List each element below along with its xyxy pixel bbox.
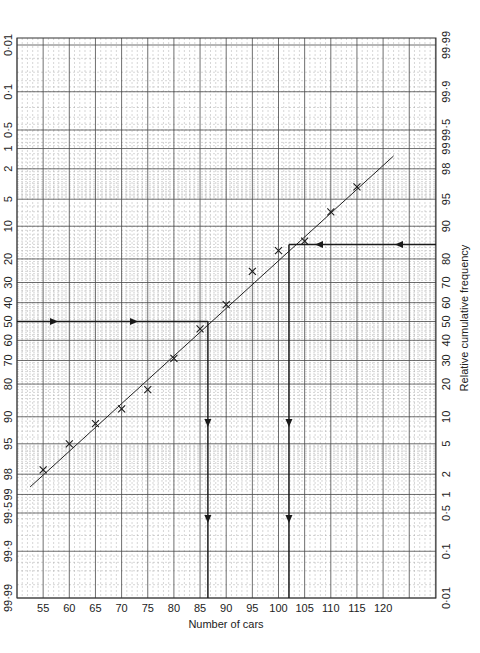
svg-text:90: 90 [2,411,14,423]
svg-text:10: 10 [2,220,14,232]
svg-text:95: 95 [440,193,452,205]
svg-text:0·5: 0·5 [440,505,452,521]
svg-text:99·99: 99·99 [2,584,14,612]
svg-text:95: 95 [246,602,258,614]
svg-text:0·1: 0·1 [440,543,452,559]
svg-text:95: 95 [2,438,14,450]
svg-text:120: 120 [374,602,392,614]
svg-text:99: 99 [2,488,14,500]
svg-text:40: 40 [440,334,452,346]
svg-text:99·9: 99·9 [440,81,452,103]
svg-text:90: 90 [440,220,452,232]
x-axis-title: Number of cars [188,618,264,630]
svg-text:0·01: 0·01 [2,34,14,56]
svg-text:75: 75 [142,602,154,614]
svg-text:80: 80 [440,253,452,265]
svg-text:5: 5 [2,196,14,202]
svg-text:20: 20 [440,378,452,390]
svg-text:105: 105 [295,602,313,614]
svg-text:2: 2 [440,471,452,477]
svg-text:115: 115 [348,602,366,614]
svg-text:99·99: 99·99 [440,31,452,59]
probability-plot: 99·9999·999·5999895908070605040302010521… [0,0,480,653]
svg-text:100: 100 [269,602,287,614]
svg-text:0·5: 0·5 [2,122,14,138]
left-axis-labels: 99·9999·999·5999895908070605040302010521… [2,34,14,612]
svg-text:85: 85 [194,602,206,614]
svg-text:55: 55 [37,602,49,614]
svg-text:99: 99 [440,142,452,154]
svg-text:99·9: 99·9 [2,540,14,562]
right-axis-labels: 0·010·10·512510203040506070809095989999·… [440,31,452,609]
svg-text:50: 50 [2,315,14,327]
svg-text:70: 70 [115,602,127,614]
svg-text:0·1: 0·1 [2,84,14,100]
svg-text:2: 2 [2,166,14,172]
svg-text:5: 5 [440,441,452,447]
svg-text:20: 20 [2,253,14,265]
svg-text:70: 70 [440,276,452,288]
svg-text:80: 80 [168,602,180,614]
svg-text:98: 98 [2,468,14,480]
svg-text:60: 60 [63,602,75,614]
svg-text:50: 50 [440,315,452,327]
right-axis-title: Relative cumulative frequency [458,244,470,391]
svg-text:80: 80 [2,378,14,390]
svg-text:30: 30 [440,354,452,366]
svg-text:65: 65 [89,602,101,614]
svg-text:98: 98 [440,163,452,175]
svg-text:1: 1 [2,145,14,151]
svg-text:90: 90 [220,602,232,614]
svg-text:60: 60 [2,334,14,346]
svg-text:60: 60 [440,297,452,309]
svg-text:40: 40 [2,297,14,309]
svg-text:70: 70 [2,354,14,366]
svg-text:110: 110 [322,602,340,614]
svg-text:99·5: 99·5 [440,119,452,141]
svg-text:0·01: 0·01 [440,587,452,609]
x-axis-labels: 556065707580859095100105110115120 [37,602,392,614]
svg-text:10: 10 [440,411,452,423]
svg-text:99·5: 99·5 [2,502,14,524]
svg-text:1: 1 [440,491,452,497]
svg-text:30: 30 [2,276,14,288]
